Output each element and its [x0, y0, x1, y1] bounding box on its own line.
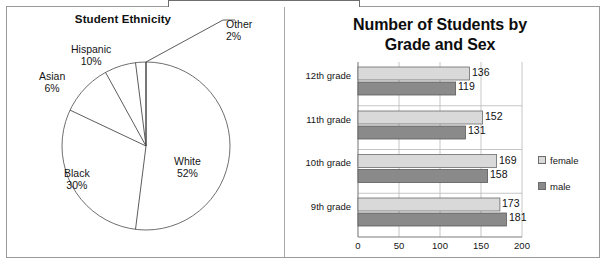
bar-11th-male	[358, 126, 465, 139]
xtick-label-50: 50	[384, 240, 414, 251]
category-label-11th-grade: 11th grade	[279, 114, 351, 125]
bar-chart-legend: female male	[538, 153, 579, 205]
pie-label-white-value: 52%	[174, 167, 201, 179]
pie-label-other: Other 2%	[226, 18, 252, 42]
value-label-11th-female: 152	[485, 110, 503, 122]
pie-label-black-value: 30%	[64, 179, 90, 191]
value-label-9th-male: 181	[509, 211, 527, 223]
category-label-9th-grade: 9th grade	[279, 201, 351, 212]
pie-label-other-value: 2%	[226, 30, 252, 42]
xtick-label-0: 0	[343, 240, 373, 251]
value-label-11th-male: 131	[468, 124, 486, 136]
xtick-label-200: 200	[507, 240, 537, 251]
bar-chart-panel: Number of Students by Grade and Sex	[285, 7, 600, 257]
legend-swatch-female-icon	[538, 156, 546, 164]
bar-12th-female	[358, 67, 470, 80]
bar-10th-male	[358, 170, 488, 183]
category-label-10th-grade: 10th grade	[279, 157, 351, 168]
value-label-10th-female: 169	[499, 154, 517, 166]
scanned-figure-page: Student Ethnicity Other 2% Hispanic 10%	[0, 0, 608, 266]
pie-label-asian: Asian 6%	[39, 70, 65, 94]
bar-10th-female	[358, 155, 497, 168]
pie-chart-graphic	[7, 7, 284, 257]
pie-label-asian-name: Asian	[39, 70, 65, 82]
value-label-9th-female: 173	[502, 197, 520, 209]
legend-item-male: male	[538, 179, 579, 193]
bar-chart-graphic	[285, 7, 600, 257]
pie-chart-panel: Student Ethnicity Other 2% Hispanic 10%	[7, 7, 284, 257]
legend-swatch-male-icon	[538, 182, 546, 190]
pie-label-white-name: White	[174, 155, 201, 167]
legend-label-female: female	[550, 155, 579, 166]
xtick-label-150: 150	[466, 240, 496, 251]
pie-label-other-name: Other	[226, 18, 252, 30]
pie-leader-line-other	[146, 20, 235, 62]
bar-9th-female	[358, 198, 500, 211]
value-label-12th-female: 136	[472, 66, 490, 78]
pie-label-hispanic: Hispanic 10%	[71, 43, 111, 67]
value-label-12th-male: 119	[458, 80, 475, 92]
bar-11th-female	[358, 111, 483, 124]
legend-item-female: female	[538, 153, 579, 167]
pie-label-asian-value: 6%	[39, 82, 65, 94]
pie-label-hispanic-value: 10%	[71, 55, 111, 67]
xtick-label-100: 100	[425, 240, 455, 251]
pie-label-black-name: Black	[64, 167, 90, 179]
pie-label-black: Black 30%	[64, 167, 90, 191]
legend-label-male: male	[550, 181, 571, 192]
bar-12th-male	[358, 82, 456, 95]
value-label-10th-male: 158	[490, 168, 508, 180]
pie-label-hispanic-name: Hispanic	[71, 43, 111, 55]
pie-label-white: White 52%	[174, 155, 201, 179]
top-tab-box	[168, 0, 360, 7]
category-label-12th-grade: 12th grade	[279, 70, 351, 81]
bar-9th-male	[358, 213, 506, 226]
